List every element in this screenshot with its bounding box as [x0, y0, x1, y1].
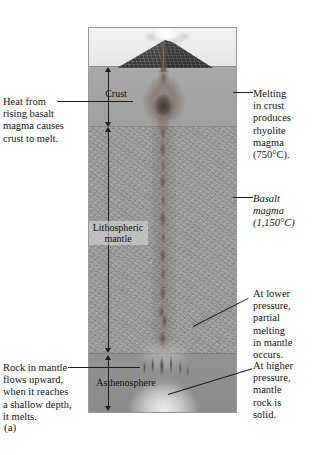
- layer-label-crust: Crust: [89, 88, 143, 99]
- callout-lower-line-3: partial: [253, 312, 319, 324]
- callout-higher-line-5: solid.: [253, 409, 319, 421]
- leader-line-melting-in-crust: [233, 92, 253, 93]
- callout-basalt-line-3: (1,150°C): [253, 217, 319, 229]
- callout-rock-line-1: Rock in mantle: [3, 362, 83, 374]
- callout-heat-from-rising-basalt: Heat from rising basalt magma causes cru…: [3, 96, 81, 145]
- callout-higher-line-3: mantle: [253, 384, 319, 396]
- callout-melting-line-2: in crust: [253, 100, 319, 112]
- callout-rock-line-4: a shallow depth,: [3, 399, 83, 411]
- callout-basalt-line-1: Basalt: [253, 193, 319, 205]
- callout-lower-line-5: in mantle: [253, 337, 319, 349]
- callout-basalt-line-2: magma: [253, 205, 319, 217]
- volcano-cross-section-figure: Crust Lithospheric mantle Asthenosphere: [88, 27, 237, 413]
- callout-higher-pressure: At higher pressure, mantle rock is solid…: [253, 360, 319, 421]
- callout-higher-line-4: rock is: [253, 397, 319, 409]
- callout-melting-line-1: Melting: [253, 88, 319, 100]
- callout-lower-line-2: pressure,: [253, 300, 319, 312]
- layer-label-lithospheric-mantle-line1: Lithospheric: [88, 222, 148, 233]
- callout-higher-line-1: At higher: [253, 360, 319, 372]
- sky-region: [89, 28, 236, 66]
- callout-melting-line-5: magma: [253, 137, 319, 149]
- callout-rock-in-mantle: Rock in mantle flows upward, when it rea…: [3, 362, 83, 423]
- callout-lower-pressure: At lower pressure, partial melting in ma…: [253, 288, 319, 361]
- callout-lower-line-4: melting: [253, 325, 319, 337]
- figure-caption: (a): [4, 421, 16, 433]
- callout-higher-line-2: pressure,: [253, 372, 319, 384]
- layer-label-lithospheric-mantle-line2: mantle: [88, 233, 148, 244]
- callout-heat-line-4: crust to melt.: [3, 133, 81, 145]
- callout-melting-line-3: produces: [253, 112, 319, 124]
- callout-rock-line-2: flows upward,: [3, 374, 83, 386]
- callout-rock-line-3: when it reaches: [3, 386, 83, 398]
- callout-basalt-magma: Basalt magma (1,150°C): [253, 193, 319, 230]
- layer-label-asthenosphere: Asthenosphere: [88, 377, 165, 388]
- callout-heat-line-1: Heat from: [3, 96, 81, 108]
- callout-heat-line-2: rising basalt: [3, 108, 81, 120]
- callout-melting-line-6: (750°C).: [253, 149, 319, 161]
- callout-melting-in-crust: Melting in crust produces rhyolite magma…: [253, 88, 319, 161]
- callout-heat-line-3: magma causes: [3, 120, 81, 132]
- callout-lower-line-1: At lower: [253, 288, 319, 300]
- layer-label-lithospheric-mantle: Lithospheric mantle: [88, 221, 148, 245]
- callout-melting-line-4: rhyolite: [253, 125, 319, 137]
- leader-line-basalt-magma: [233, 197, 253, 198]
